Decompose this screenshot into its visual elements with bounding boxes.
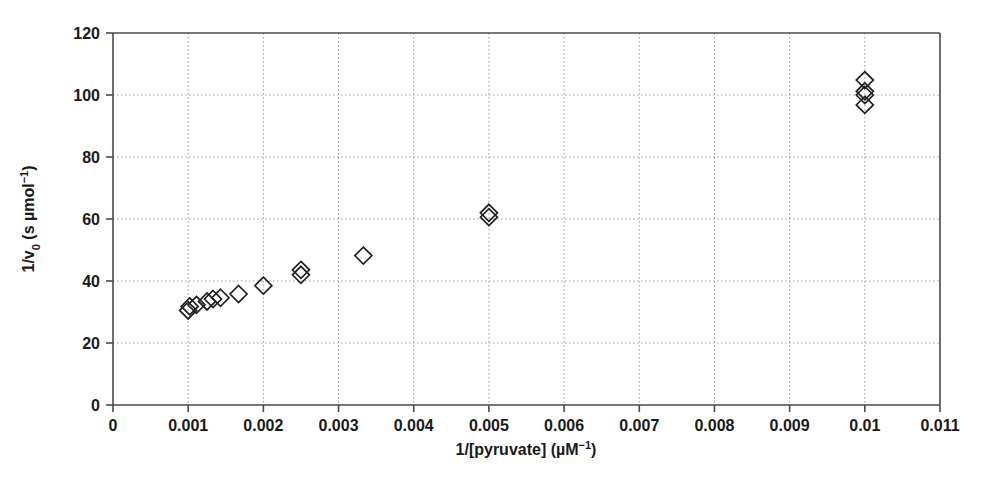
y-tick-label: 20 xyxy=(82,335,100,352)
x-axis-title: 1/[pyruvate] (µM−1) xyxy=(456,439,597,458)
y-tick-label: 120 xyxy=(73,25,100,42)
x-tick-label: 0.005 xyxy=(469,417,509,434)
x-tick-label: 0.006 xyxy=(544,417,584,434)
y-tick-label: 100 xyxy=(73,87,100,104)
x-tick-label: 0.007 xyxy=(619,417,659,434)
y-tick-label: 60 xyxy=(82,211,100,228)
x-axis-ticks xyxy=(113,405,940,412)
lineweaver-burk-plot: 00.0010.0020.0030.0040.0050.0060.0070.00… xyxy=(0,0,989,486)
y-tick-label: 80 xyxy=(82,149,100,166)
figure-container: 00.0010.0020.0030.0040.0050.0060.0070.00… xyxy=(0,0,989,486)
x-tick-label: 0.004 xyxy=(394,417,434,434)
x-tick-label: 0.003 xyxy=(319,417,359,434)
x-tick-label: 0.001 xyxy=(168,417,208,434)
x-tick-label: 0 xyxy=(109,417,118,434)
x-tick-label: 0.008 xyxy=(694,417,734,434)
y-axis-tick-labels: 020406080100120 xyxy=(73,25,100,414)
x-axis-tick-labels: 00.0010.0020.0030.0040.0050.0060.0070.00… xyxy=(109,417,960,434)
x-tick-label: 0.002 xyxy=(243,417,283,434)
x-tick-label: 0.01 xyxy=(849,417,880,434)
x-tick-label: 0.011 xyxy=(920,417,959,434)
x-tick-label: 0.009 xyxy=(770,417,810,434)
y-tick-label: 40 xyxy=(82,273,100,290)
y-axis-ticks xyxy=(106,33,113,405)
y-tick-label: 0 xyxy=(91,397,100,414)
y-axis-title: 1/v0 (s µmol−1) xyxy=(18,165,42,272)
